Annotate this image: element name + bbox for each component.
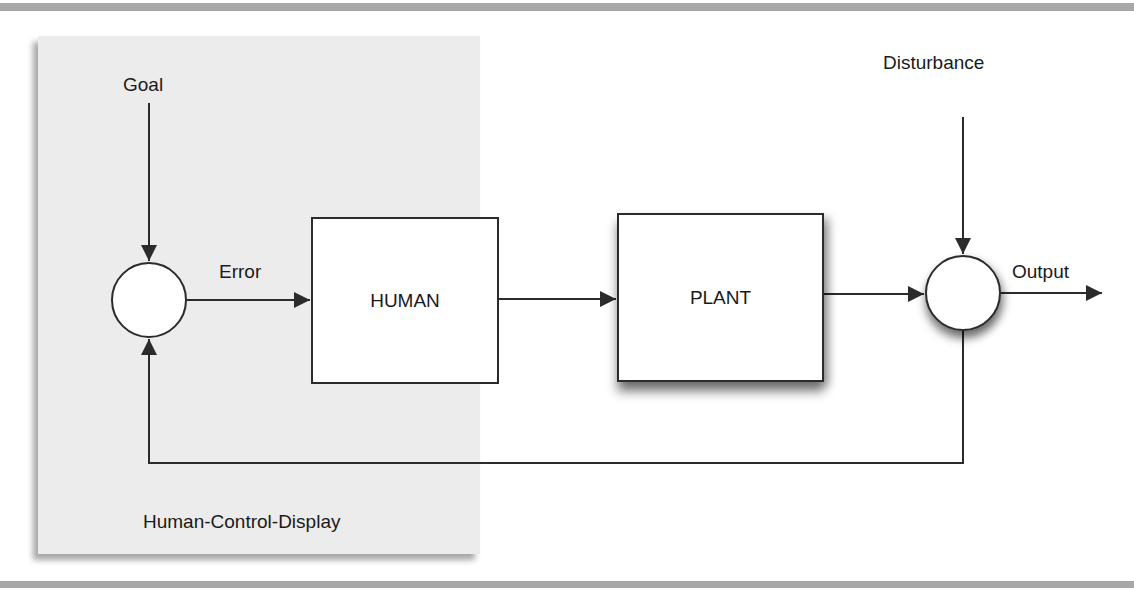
feedback-arrow xyxy=(149,331,963,463)
human-block-label: HUMAN xyxy=(370,290,440,312)
output-summing-junction xyxy=(925,255,1001,331)
plant-block-label: PLANT xyxy=(690,287,751,309)
comparator-junction xyxy=(111,262,187,338)
human-block: HUMAN xyxy=(311,217,499,384)
plant-block: PLANT xyxy=(617,213,824,382)
